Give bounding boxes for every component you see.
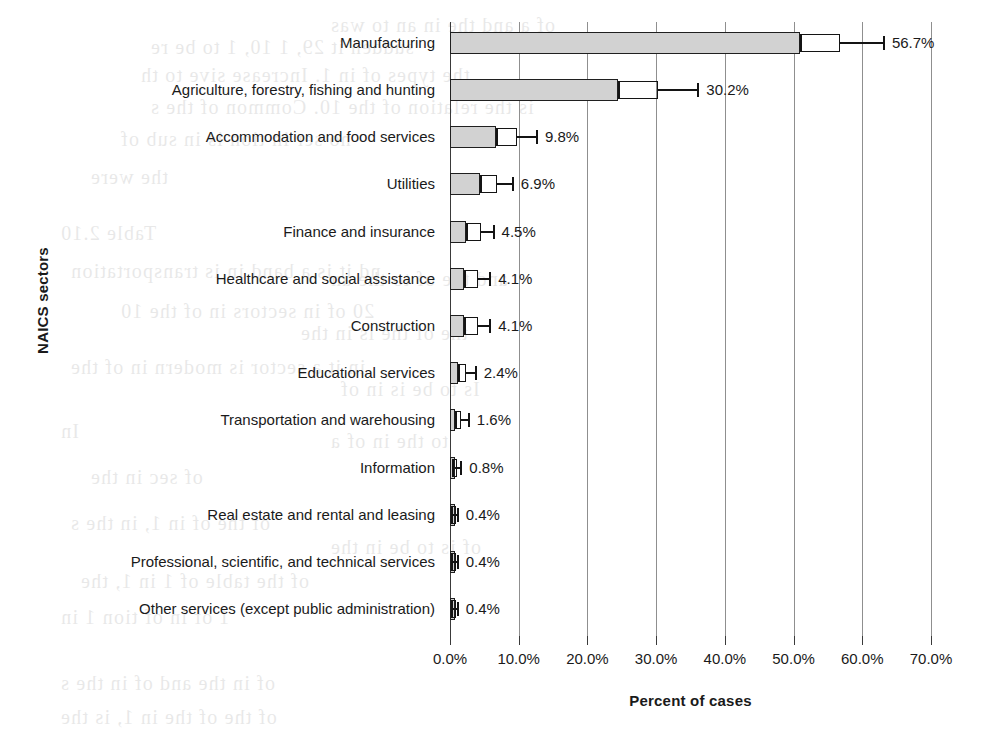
bleedthrough-text: to the in of a bbox=[330, 430, 448, 453]
error-whisker bbox=[478, 278, 489, 280]
error-whisker-cap bbox=[883, 36, 885, 50]
error-whisker bbox=[478, 325, 489, 327]
bar-value-label: 9.8% bbox=[545, 129, 579, 144]
category-label: Healthcare and social assistance bbox=[15, 271, 435, 286]
gridline bbox=[656, 22, 657, 636]
category-label: Finance and insurance bbox=[15, 224, 435, 239]
bar-value-label: 0.4% bbox=[466, 601, 500, 616]
bar-value-label: 30.2% bbox=[706, 82, 749, 97]
error-whisker-cap bbox=[457, 555, 459, 569]
error-box bbox=[464, 317, 478, 335]
x-axis-tick-label: 70.0% bbox=[891, 650, 971, 667]
error-box bbox=[480, 175, 498, 193]
error-box bbox=[466, 223, 480, 241]
error-box bbox=[496, 128, 517, 146]
error-center-mark bbox=[496, 128, 498, 146]
error-center-mark bbox=[458, 364, 460, 382]
x-axis-tick bbox=[862, 636, 863, 645]
category-label: Educational services bbox=[15, 365, 435, 380]
bar bbox=[450, 315, 464, 337]
category-label: Utilities bbox=[15, 176, 435, 191]
error-center-mark bbox=[464, 317, 466, 335]
bleedthrough-text: of in the and of in the s bbox=[60, 672, 275, 695]
category-label: Transportation and warehousing bbox=[15, 412, 435, 427]
category-label: Information bbox=[15, 460, 435, 475]
error-whisker-cap bbox=[697, 83, 699, 97]
bar-value-label: 4.1% bbox=[498, 271, 532, 286]
error-whisker bbox=[497, 183, 511, 185]
category-label: Real estate and rental and leasing bbox=[15, 507, 435, 522]
error-whisker bbox=[461, 419, 468, 421]
error-whisker-cap bbox=[512, 177, 514, 191]
category-label: Construction bbox=[15, 318, 435, 333]
bar-value-label: 56.7% bbox=[892, 35, 935, 50]
x-axis-tick bbox=[794, 636, 795, 645]
gridline bbox=[862, 22, 863, 636]
bar-value-label: 4.5% bbox=[502, 224, 536, 239]
error-whisker-cap bbox=[457, 508, 459, 522]
bar bbox=[450, 126, 496, 148]
x-axis-tick bbox=[656, 636, 657, 645]
error-center-mark bbox=[480, 175, 482, 193]
error-whisker-cap bbox=[536, 130, 538, 144]
x-axis-tick bbox=[587, 636, 588, 645]
bar bbox=[450, 173, 480, 195]
error-whisker bbox=[466, 372, 474, 374]
error-whisker bbox=[517, 136, 536, 138]
error-whisker-cap bbox=[460, 461, 462, 475]
error-whisker bbox=[481, 231, 493, 233]
error-box bbox=[464, 270, 478, 288]
category-label: Professional, scientific, and technical … bbox=[15, 554, 435, 569]
category-label: Agriculture, forestry, fishing and hunti… bbox=[15, 82, 435, 97]
bar-value-label: 0.8% bbox=[469, 460, 503, 475]
bar-value-label: 4.1% bbox=[498, 318, 532, 333]
error-box bbox=[800, 34, 839, 52]
bar-value-label: 2.4% bbox=[484, 365, 518, 380]
error-center-mark bbox=[464, 270, 466, 288]
error-whisker bbox=[658, 89, 698, 91]
error-center-mark bbox=[466, 223, 468, 241]
error-whisker-cap bbox=[493, 225, 495, 239]
x-axis-tick bbox=[725, 636, 726, 645]
bar bbox=[450, 79, 618, 101]
bar-value-label: 0.4% bbox=[466, 554, 500, 569]
error-center-mark bbox=[800, 34, 802, 52]
bar-value-label: 1.6% bbox=[477, 412, 511, 427]
x-axis-tick bbox=[519, 636, 520, 645]
bar-value-label: 6.9% bbox=[521, 176, 555, 191]
bar bbox=[450, 268, 464, 290]
error-center-mark bbox=[452, 459, 454, 477]
plot-area: 0.0%10.0%20.0%30.0%40.0%50.0%60.0%70.0%5… bbox=[450, 22, 931, 636]
error-whisker-cap bbox=[475, 366, 477, 380]
error-whisker bbox=[840, 42, 883, 44]
x-axis-tick bbox=[450, 636, 451, 645]
error-whisker-cap bbox=[489, 272, 491, 286]
gridline bbox=[794, 22, 795, 636]
error-center-mark bbox=[618, 81, 620, 99]
gridline bbox=[931, 22, 932, 636]
x-axis-title: Percent of cases bbox=[450, 692, 931, 709]
category-label: Accommodation and food services bbox=[15, 129, 435, 144]
gridline bbox=[587, 22, 588, 636]
error-whisker-cap bbox=[489, 319, 491, 333]
bleedthrough-text: of the of the in 1, is the bbox=[60, 706, 277, 729]
bar-value-label: 0.4% bbox=[466, 507, 500, 522]
gridline bbox=[725, 22, 726, 636]
bar-chart: of a and the in an to wassudden it 29, 1… bbox=[0, 0, 983, 739]
x-axis-tick bbox=[931, 636, 932, 645]
error-whisker-cap bbox=[468, 413, 470, 427]
error-box bbox=[618, 81, 657, 99]
bleedthrough-text: of the table of 1 in 1, the bbox=[80, 570, 309, 593]
bar bbox=[450, 221, 466, 243]
error-whisker-cap bbox=[457, 602, 459, 616]
category-label: Other services (except public administra… bbox=[15, 601, 435, 616]
error-center-mark bbox=[455, 411, 457, 429]
bar bbox=[450, 362, 458, 384]
y-axis-title: NAICS sectors bbox=[34, 221, 51, 381]
category-label: Manufacturing bbox=[15, 35, 435, 50]
bar bbox=[450, 32, 800, 54]
